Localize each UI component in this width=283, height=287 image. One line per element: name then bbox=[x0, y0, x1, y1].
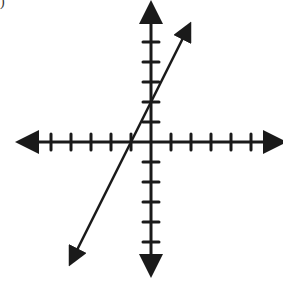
coordinate-plane bbox=[0, 0, 283, 287]
line-series bbox=[130, 26, 189, 144]
line-series bbox=[71, 144, 130, 262]
